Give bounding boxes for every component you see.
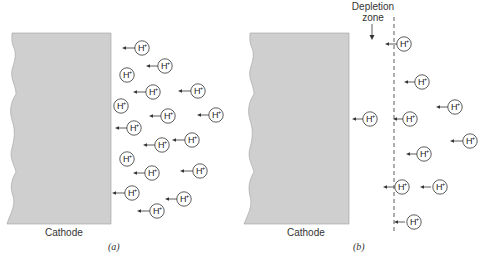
hydrogen-ion: H+ — [114, 99, 128, 113]
arrowhead-icon — [149, 114, 153, 118]
ions-a: H+H+H+H+H+H+H+H+H+H+H+H+H+H+H+H+H+ — [112, 41, 223, 218]
hydrogen-ion: H+ — [436, 100, 462, 114]
hydrogen-ion: H+ — [197, 108, 223, 122]
arrowhead-icon — [165, 197, 169, 201]
arrowhead-icon — [137, 209, 141, 213]
hydrogen-ion: H+ — [394, 215, 421, 229]
arrowhead-icon — [146, 64, 150, 68]
hydrogen-ion: H+ — [122, 41, 149, 55]
ion-charge: + — [167, 60, 171, 66]
hydrogen-ion: H+ — [143, 138, 169, 152]
arrowhead-icon — [143, 143, 147, 147]
ion-charge: + — [416, 216, 420, 222]
hydrogen-ion: H+ — [165, 192, 191, 206]
arrowhead-icon — [383, 185, 387, 189]
ion-charge: + — [194, 134, 198, 140]
arrowhead-icon — [122, 46, 126, 50]
ion-charge: + — [202, 165, 206, 171]
ions-b: H+H+H+H+H+H+H+H+H+H+ — [352, 37, 477, 229]
depletion-label-line2: zone — [362, 12, 384, 23]
arrowhead-icon — [197, 113, 201, 117]
arrowhead-icon — [404, 80, 408, 84]
ion-charge: + — [129, 153, 133, 159]
hydrogen-ion: H+ — [178, 84, 205, 98]
ion-charge: + — [154, 167, 158, 173]
ion-charge: + — [134, 187, 138, 193]
ion-charge: + — [457, 101, 461, 107]
cathode-a — [7, 33, 111, 224]
arrowhead-icon — [394, 220, 398, 224]
cathode-label-b: Cathode — [287, 227, 325, 238]
ion-charge: + — [144, 42, 148, 48]
arrowhead-icon — [133, 90, 137, 94]
hydrogen-ion: H+ — [120, 68, 134, 82]
cathode-label-a: Cathode — [45, 227, 83, 238]
arrowhead-icon — [172, 138, 176, 142]
arrowhead-icon — [385, 42, 389, 46]
hydrogen-ion: H+ — [383, 180, 409, 194]
hydrogen-ion: H+ — [180, 164, 207, 178]
hydrogen-ion: H+ — [120, 152, 134, 166]
cathode-b — [244, 33, 349, 224]
arrowhead-icon — [180, 169, 184, 173]
ion-charge: + — [123, 100, 127, 106]
caption-a: (a) — [108, 241, 120, 253]
hydrogen-ion: H+ — [450, 134, 477, 148]
ion-charge: + — [218, 109, 222, 115]
ion-charge: + — [186, 193, 190, 199]
ion-charge: + — [372, 113, 376, 119]
hydrogen-ion: H+ — [149, 109, 175, 123]
hydrogen-ion: H+ — [133, 85, 160, 99]
ion-charge: + — [442, 181, 446, 187]
cathode-depletion-figure: Cathode (a) H+H+H+H+H+H+H+H+H+H+H+H+H+H+… — [0, 0, 484, 258]
hydrogen-ion: H+ — [146, 59, 172, 73]
hydrogen-ion: H+ — [115, 121, 141, 135]
hydrogen-ion: H+ — [385, 37, 411, 51]
arrowhead-icon — [352, 117, 356, 121]
panel-a: Cathode (a) H+H+H+H+H+H+H+H+H+H+H+H+H+H+… — [7, 33, 223, 253]
hydrogen-ion: H+ — [352, 112, 377, 126]
ion-charge: + — [170, 110, 174, 116]
arrowhead-icon — [115, 126, 119, 130]
ion-charge: + — [129, 69, 133, 75]
panel-b: Depletion zone Cathode (b) H+H+H+H+H+H+H… — [244, 1, 477, 253]
ion-charge: + — [406, 38, 410, 44]
caption-b: (b) — [353, 241, 365, 253]
arrowhead-icon — [450, 139, 454, 143]
arrowhead-icon — [436, 105, 440, 109]
arrowhead-icon — [133, 171, 137, 175]
hydrogen-ion: H+ — [406, 147, 431, 161]
arrowhead-icon — [112, 191, 116, 195]
ion-charge: + — [155, 86, 159, 92]
hydrogen-ion: H+ — [393, 112, 417, 126]
arrowhead-icon — [406, 152, 410, 156]
ion-charge: + — [136, 122, 140, 128]
ion-charge: + — [426, 148, 430, 154]
ion-charge: + — [404, 181, 408, 187]
ion-charge: + — [424, 76, 428, 82]
hydrogen-ion: H+ — [420, 180, 447, 194]
ion-charge: + — [412, 113, 416, 119]
ion-charge: + — [200, 85, 204, 91]
hydrogen-ion: H+ — [172, 133, 199, 147]
hydrogen-ion: H+ — [133, 166, 159, 180]
ion-charge: + — [164, 139, 168, 145]
arrowhead-icon — [420, 185, 424, 189]
down-arrow-icon — [370, 35, 375, 40]
depletion-label-line1: Depletion — [352, 1, 394, 12]
ion-charge: + — [159, 205, 163, 211]
ion-charge: + — [472, 135, 476, 141]
hydrogen-ion: H+ — [404, 75, 429, 89]
hydrogen-ion: H+ — [137, 204, 164, 218]
hydrogen-ion: H+ — [112, 186, 139, 200]
arrowhead-icon — [178, 89, 182, 93]
